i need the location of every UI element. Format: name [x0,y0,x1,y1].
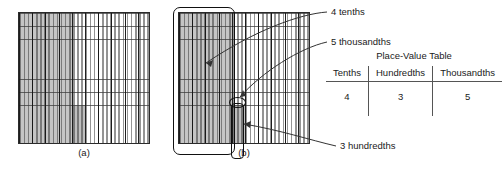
cell-thousandths-value: 5 [433,82,502,117]
place-value-table-title: Place-Value Table [326,50,502,61]
table-row: 4 3 5 [326,82,502,117]
place-value-table-wrap: Place-Value Table Tenths Hundredths Thou… [326,50,502,116]
table-header-row: Tenths Hundredths Thousandths [326,66,502,82]
cell-hundredths-value: 3 [369,82,433,117]
annotation-five-thousandths: 5 thousandths [331,36,391,47]
place-value-table: Tenths Hundredths Thousandths 4 3 5 [326,66,502,116]
annotation-four-tenths: 4 tenths [331,6,365,17]
column-header-tenths: Tenths [326,66,369,82]
column-header-hundredths: Hundredths [369,66,433,82]
column-header-thousandths: Thousandths [433,66,502,82]
annotation-three-hundredths: 3 hundredths [340,140,395,151]
cell-tenths-value: 4 [326,82,369,117]
